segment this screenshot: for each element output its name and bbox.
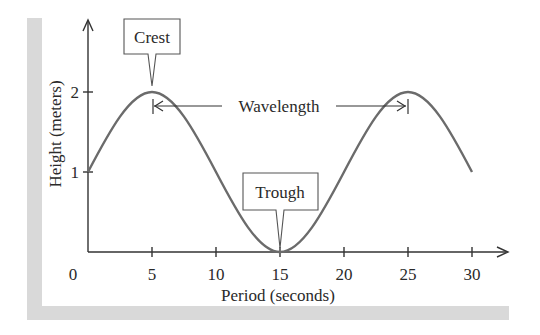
wavelength-label: Wavelength bbox=[239, 97, 320, 116]
axes bbox=[83, 20, 508, 257]
wave-chart: 0 5 10 15 20 25 30 1 2 Period (seconds) … bbox=[0, 0, 540, 335]
x-tick-label-20: 20 bbox=[336, 265, 353, 284]
trough-label: Trough bbox=[255, 183, 305, 202]
y-tick-label-2: 2 bbox=[71, 83, 80, 102]
crest-label: Crest bbox=[134, 28, 170, 47]
x-tick-label-0: 0 bbox=[69, 265, 78, 284]
x-tick-label-10: 10 bbox=[208, 265, 225, 284]
x-tick-label-30: 30 bbox=[464, 265, 481, 284]
x-tick-label-25: 25 bbox=[400, 265, 417, 284]
y-tick-label-1: 1 bbox=[71, 163, 80, 182]
x-tick-label-15: 15 bbox=[272, 265, 289, 284]
y-axis-title: Height (meters) bbox=[46, 80, 65, 187]
crest-callout: Crest bbox=[124, 19, 180, 86]
x-axis-title: Period (seconds) bbox=[221, 286, 335, 305]
x-tick-label-5: 5 bbox=[148, 265, 157, 284]
